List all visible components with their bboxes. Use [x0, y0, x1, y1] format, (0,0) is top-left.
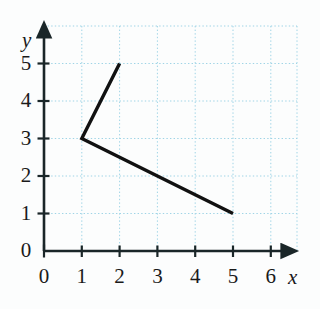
x-tick-label-1: 1	[74, 266, 90, 287]
x-tick-label-3: 3	[149, 266, 165, 287]
x-tick-label-5: 5	[225, 266, 241, 287]
y-tick-label-1: 1	[18, 203, 34, 224]
y-axis-label: y	[22, 30, 31, 51]
y-tick-label-2: 2	[18, 165, 34, 186]
y-tick-label-4: 4	[18, 90, 34, 111]
y-tick-label-5: 5	[18, 53, 34, 74]
plot-canvas	[0, 0, 320, 309]
x-tick-label-0: 0	[36, 266, 52, 287]
x-tick-label-4: 4	[187, 266, 203, 287]
x-axis-label: x	[288, 267, 297, 288]
y-tick-label-0: 0	[18, 240, 34, 261]
coordinate-plane-figure: 0 1 2 3 4 5 0 1 2 3 4 5 6 y x	[0, 0, 320, 309]
y-tick-label-3: 3	[18, 128, 34, 149]
x-tick-label-6: 6	[263, 266, 279, 287]
x-tick-label-2: 2	[112, 266, 128, 287]
